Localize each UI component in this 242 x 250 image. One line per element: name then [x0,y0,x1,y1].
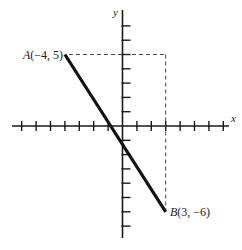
point-b-label: B(3, −6) [170,205,210,219]
point-a-label: A(−4, 5) [22,48,63,62]
point-b-coords: (3, −6) [177,205,210,219]
coordinate-plane-diagram: x y A(−4, 5) B(3, −6) [0,0,242,250]
point-a-coords: (−4, 5) [30,48,63,62]
segment-ab [65,55,166,212]
y-axis-label: y [112,6,118,18]
x-axis-label: x [230,112,236,124]
